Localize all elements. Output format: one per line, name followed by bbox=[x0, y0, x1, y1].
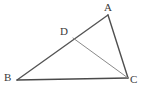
vertex-label-c: C bbox=[130, 74, 137, 85]
segment-bc bbox=[17, 78, 128, 80]
vertex-label-b: B bbox=[4, 72, 11, 83]
segment-dc bbox=[73, 38, 128, 78]
vertex-label-d: D bbox=[60, 26, 68, 37]
segment-ac bbox=[108, 15, 128, 78]
vertex-label-a: A bbox=[104, 2, 112, 13]
geometry-canvas bbox=[0, 0, 146, 104]
geometry-figure: A B C D bbox=[0, 0, 146, 104]
